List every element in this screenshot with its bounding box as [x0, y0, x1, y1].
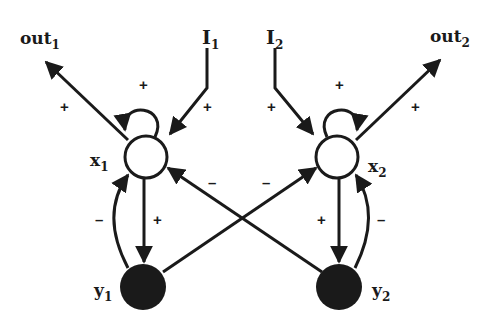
sign-y2-x1: –: [208, 174, 216, 191]
sign-x1-out1: +: [60, 98, 69, 115]
sign-x2-y2: +: [317, 211, 326, 228]
edge-I1-x1: [170, 48, 207, 134]
node-y2: [316, 264, 362, 310]
edge-x1-self: [125, 110, 158, 137]
label-out2: out2: [430, 26, 470, 50]
label-I1: I1: [202, 26, 219, 52]
label-x1: x1: [90, 150, 109, 174]
edge-x1-out1: [46, 62, 128, 140]
sign-x2-out2: +: [411, 98, 420, 115]
label-y2: y2: [371, 280, 390, 304]
node-x1: [125, 136, 167, 178]
sign-y1-x2: –: [262, 174, 270, 191]
node-x2: [316, 136, 358, 178]
node-y1: [120, 264, 166, 310]
edge-I2-x2: [275, 48, 313, 134]
edge-y2-x2: [355, 175, 369, 268]
edge-y1-x1: [114, 175, 128, 268]
edge-y1-x2: [163, 168, 316, 272]
label-I2: I2: [266, 26, 283, 52]
label-y1: y1: [93, 280, 112, 304]
sign-I2-x2: +: [267, 98, 276, 115]
edge-x2-self: [324, 110, 357, 137]
sign-y1-x1: –: [95, 211, 103, 228]
sign-y2-x2: –: [377, 211, 385, 228]
sign-I1-x1: +: [203, 98, 212, 115]
network-diagram: out1 I1 I2 out2 x1 x2 y1 y2 + + + + – – …: [0, 0, 489, 326]
sign-x1-self: +: [139, 76, 148, 93]
label-x2: x2: [368, 156, 387, 180]
sign-x1-y1: +: [153, 211, 162, 228]
label-out1: out1: [20, 28, 60, 52]
edge-y2-x1: [168, 168, 322, 272]
sign-x2-self: +: [335, 76, 344, 93]
edge-x2-out2: [356, 60, 440, 140]
